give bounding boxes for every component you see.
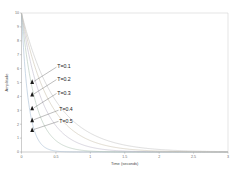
y-axis-tick-label: 3 bbox=[17, 109, 19, 113]
y-axis-tick-label: 2 bbox=[17, 123, 19, 127]
x-axis-tick-label: 3 bbox=[227, 155, 229, 159]
y-axis-tick-label: 5 bbox=[17, 81, 19, 85]
x-axis-tick-label: 2 bbox=[158, 155, 160, 159]
series-label-t-0-4: T=0.4 bbox=[59, 106, 73, 112]
chart-page: 01234567891000.511.522.53Time (seconds)A… bbox=[0, 0, 234, 176]
x-axis-tick-label: 0 bbox=[21, 155, 23, 159]
series-marker-triangle bbox=[30, 118, 34, 123]
y-axis-tick-label: 0 bbox=[17, 150, 19, 154]
annotation-leader-line bbox=[34, 121, 59, 129]
x-axis-tick-label: 0.5 bbox=[53, 155, 58, 159]
plot-axes bbox=[22, 13, 229, 152]
annotation-leader-line bbox=[34, 67, 57, 81]
series-label-t-0-1: T=0.1 bbox=[57, 63, 71, 69]
y-axis-title: Amplitude bbox=[4, 73, 9, 92]
annotation-leader-line bbox=[34, 94, 57, 108]
y-axis-tick-label: 6 bbox=[17, 67, 19, 71]
series-label-t-0-5: T=0.5 bbox=[59, 118, 73, 124]
decay-curve-t-0-4 bbox=[22, 13, 229, 152]
x-axis-tick-label: 2.5 bbox=[191, 155, 196, 159]
y-axis-tick-label: 9 bbox=[17, 25, 19, 29]
y-axis-tick-label: 1 bbox=[17, 136, 19, 140]
x-axis-tick-label: 1.5 bbox=[122, 155, 127, 159]
decay-curve-t-0-1 bbox=[22, 13, 229, 152]
series-label-t-0-3: T=0.3 bbox=[57, 90, 71, 96]
y-axis-tick-label: 7 bbox=[17, 53, 19, 57]
y-axis-tick-label: 4 bbox=[17, 95, 19, 99]
x-axis-title: Time (seconds) bbox=[111, 161, 139, 166]
plot-frame bbox=[22, 13, 229, 152]
annotation-leader-line bbox=[34, 110, 59, 120]
exponential-decay-chart: 01234567891000.511.522.53Time (seconds)A… bbox=[0, 0, 234, 176]
decay-curve-t-0-3 bbox=[22, 13, 229, 152]
series-label-t-0-2: T=0.2 bbox=[57, 76, 71, 82]
x-axis-tick-label: 1 bbox=[89, 155, 91, 159]
decay-curve-t-0-2 bbox=[22, 13, 229, 152]
y-axis-tick-label: 10 bbox=[15, 11, 19, 15]
series-marker-triangle bbox=[30, 106, 34, 111]
y-axis-tick-label: 8 bbox=[17, 39, 19, 43]
